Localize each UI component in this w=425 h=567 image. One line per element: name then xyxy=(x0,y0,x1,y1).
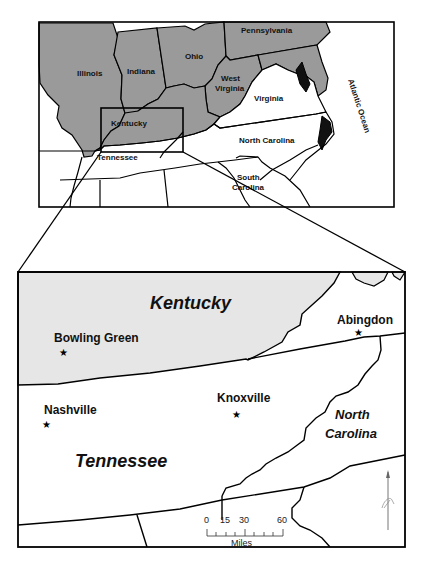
city-label: Nashville xyxy=(44,403,97,417)
label-tennessee-overview: Tennessee xyxy=(97,153,138,162)
label-north-carolina-inset-1: North xyxy=(335,407,370,422)
star-icon: ★ xyxy=(232,409,241,420)
label-virginia: Virginia xyxy=(254,94,284,103)
star-icon: ★ xyxy=(354,327,363,338)
label-south-carolina-1: South xyxy=(237,173,260,182)
scale-tick-15: 15 xyxy=(220,515,230,525)
zoom-connectors xyxy=(18,152,405,272)
star-icon: ★ xyxy=(59,347,68,358)
city-label: Knoxville xyxy=(217,391,271,405)
scale-bar: 0 15 30 60 Miles xyxy=(204,515,287,548)
label-west-virginia-2: Virginia xyxy=(215,84,245,93)
label-north-carolina-inset-2: Carolina xyxy=(325,426,377,441)
label-kentucky-inset: Kentucky xyxy=(150,293,232,313)
inset-map: Kentucky Tennessee North Carolina Bowlin… xyxy=(18,272,405,548)
scale-unit: Miles xyxy=(231,538,253,548)
city-knoxville: Knoxville ★ xyxy=(217,391,271,420)
scale-tick-60: 60 xyxy=(277,515,287,525)
city-label: Abingdon xyxy=(337,313,393,327)
north-arrow-icon xyxy=(382,470,394,530)
star-icon: ★ xyxy=(42,419,51,430)
label-atlantic-ocean: Atlantic Ocean xyxy=(346,78,372,134)
wv-inset-corner xyxy=(392,272,405,280)
city-abingdon: Abingdon ★ xyxy=(337,313,393,338)
scale-tick-0: 0 xyxy=(204,515,209,525)
label-tennessee-inset: Tennessee xyxy=(75,451,167,471)
city-nashville: Nashville ★ xyxy=(42,403,97,430)
scale-tick-30: 30 xyxy=(239,515,249,525)
label-illinois: Illinois xyxy=(77,69,103,78)
label-indiana: Indiana xyxy=(127,67,156,76)
label-ohio: Ohio xyxy=(185,52,203,61)
label-west-virginia-1: West xyxy=(221,74,240,83)
map-figure: Pennsylvania Ohio Indiana Illinois West … xyxy=(0,0,425,567)
kentucky-inset-shape xyxy=(18,272,340,385)
overview-map: Pennsylvania Ohio Indiana Illinois West … xyxy=(39,22,394,207)
label-kentucky-overview: Kentucky xyxy=(111,119,148,128)
label-north-carolina-overview: North Carolina xyxy=(239,136,295,145)
virginia-inset-pocket xyxy=(352,272,388,286)
city-label: Bowling Green xyxy=(54,331,139,345)
label-pennsylvania: Pennsylvania xyxy=(241,26,293,35)
